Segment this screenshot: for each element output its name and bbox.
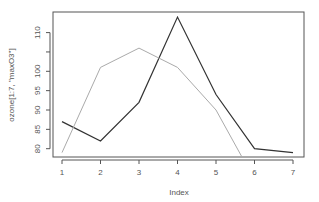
x-tick-label: 6 [252, 168, 257, 177]
x-tick-label: 2 [98, 168, 103, 177]
series-line-1 [62, 17, 293, 153]
y-tick-label: 100 [33, 64, 42, 78]
plot-box [53, 12, 304, 157]
y-tick-label: 85 [33, 124, 42, 133]
x-axis: 1234567 [60, 160, 296, 177]
x-tick-label: 1 [60, 168, 65, 177]
y-axis-label: ozone[1:7, "maxO3"] [7, 48, 16, 121]
line-chart: 1234567 80859095100110 Index ozone[1:7, … [0, 0, 319, 202]
y-tick-label: 95 [33, 86, 42, 95]
x-axis-label: Index [169, 188, 189, 197]
y-tick-label: 90 [33, 105, 42, 114]
x-tick-label: 5 [214, 168, 219, 177]
series-line-2 [62, 48, 293, 202]
x-tick-label: 4 [175, 168, 180, 177]
y-tick-label: 110 [33, 26, 42, 39]
y-axis: 80859095100110 [33, 26, 50, 153]
y-tick-label: 80 [33, 144, 42, 153]
x-tick-label: 7 [291, 168, 296, 177]
x-tick-label: 3 [137, 168, 142, 177]
